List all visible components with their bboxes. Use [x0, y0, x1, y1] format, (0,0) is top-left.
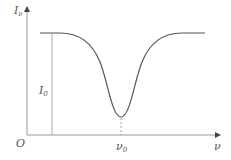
center-frequency-label: ν0	[116, 140, 128, 154]
origin-label: O	[16, 137, 25, 150]
absorption-profile-curve	[40, 33, 205, 117]
continuum-label: I0	[38, 84, 48, 98]
x-axis-label: ν	[214, 140, 221, 153]
y-axis-label: Iν	[13, 4, 23, 18]
line-profile-diagram: Iν I0 O ν0 ν	[0, 0, 231, 160]
